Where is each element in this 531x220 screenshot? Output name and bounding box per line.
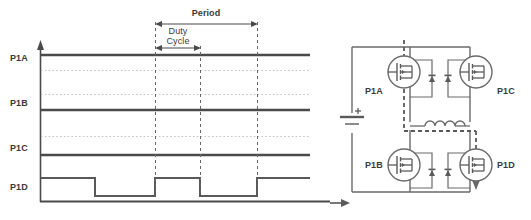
diode-loops (410, 60, 470, 188)
current-arrow-icon (470, 175, 482, 190)
duty-cycle-label-line1: Duty (152, 26, 204, 36)
current-path (404, 40, 476, 178)
dc-source-symbol (340, 108, 364, 124)
diode-symbols (429, 75, 452, 176)
mosfet-label-p1b: P1B (365, 160, 383, 170)
mosfet-label-p1d: P1D (497, 160, 515, 170)
load-inductor (410, 121, 470, 126)
timing-gridlines (41, 71, 310, 137)
mosfet-p1c (460, 56, 492, 88)
channel-label-p1a: P1A (10, 53, 28, 63)
mosfet-p1a (388, 56, 420, 88)
mosfet-label-p1a: P1A (365, 86, 383, 96)
mosfet-p1d (460, 149, 492, 181)
channel-label-p1b: P1B (10, 98, 28, 108)
period-label: Period (176, 8, 236, 18)
figure-root: Period Duty Cycle P1A P1B P1C P1D (0, 0, 531, 220)
duty-cycle-label-line2: Cycle (152, 36, 204, 46)
waveform-p1d (41, 178, 310, 196)
channel-label-p1d: P1D (10, 182, 28, 192)
circuit-rails (352, 47, 470, 192)
mosfet-label-p1c: P1C (497, 86, 515, 96)
mosfet-p1b (388, 149, 420, 181)
channel-label-p1c: P1C (10, 143, 28, 153)
